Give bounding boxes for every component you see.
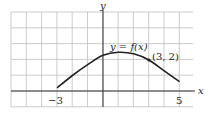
- x-axis-label: x: [198, 85, 204, 96]
- point-3-2: [147, 58, 150, 61]
- curve-label: y = f(x): [109, 41, 148, 52]
- y-axis-label: y: [99, 0, 106, 11]
- function-graph: x y y = f(x) (3, 2) −3 5: [0, 0, 213, 117]
- x-tick-5: 5: [176, 95, 182, 106]
- point-label: (3, 2): [152, 51, 179, 62]
- x-tick-neg3: −3: [48, 95, 63, 106]
